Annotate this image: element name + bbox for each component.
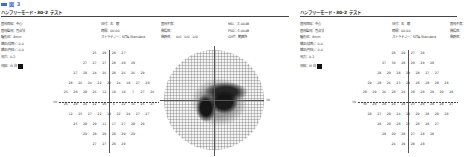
threshold-value: 26	[130, 72, 137, 75]
threshold-value: 24	[395, 113, 402, 116]
threshold-value: 27	[120, 123, 127, 126]
threshold-value: 28	[409, 143, 416, 146]
threshold-value: 25	[91, 52, 98, 55]
threshold-value: 29	[438, 91, 445, 94]
threshold-value: 28	[376, 123, 383, 126]
threshold-value: 28	[419, 91, 426, 94]
info-time: 時間：00:00	[392, 28, 436, 35]
threshold-value: 28	[419, 103, 426, 106]
threshold-value: 29	[82, 133, 89, 136]
grayscale-plot: 30	[162, 46, 266, 156]
info-pupil: 瞳孔径：4mm	[300, 34, 324, 41]
threshold-value: 24	[125, 113, 132, 116]
info-fixation-losses: 固視不良：	[450, 21, 465, 28]
threshold-value: 28	[414, 82, 421, 85]
threshold-value: 27	[91, 62, 98, 65]
threshold-value: 28	[381, 103, 388, 106]
global-indices: MD：-5.00dB PSD：5.00dB GHT：範囲外	[228, 21, 249, 41]
threshold-value: 27	[134, 113, 141, 116]
threshold-value: 28	[110, 72, 117, 75]
threshold-value: 28	[376, 72, 383, 75]
threshold-value: 12	[101, 91, 108, 94]
threshold-value: 29	[371, 91, 378, 94]
threshold-value: 29	[405, 82, 412, 85]
horizontal-axis	[160, 100, 264, 101]
threshold-value: 28	[110, 143, 117, 146]
threshold-value: 28	[429, 103, 436, 106]
threshold-value: 28	[72, 91, 79, 94]
info-false-neg: 偽陰性：	[450, 34, 465, 41]
info-fixation-monitor: 固視監視：盲点法	[1, 28, 25, 35]
threshold-grid: 30 2529282727272728282927282426282626292…	[56, 50, 156, 153]
info-fixation-target: 固視目標：中心	[1, 21, 25, 28]
threshold-value: 28	[443, 113, 450, 116]
threshold-value: 18	[110, 91, 117, 94]
threshold-value: 27	[72, 72, 79, 75]
title-rule	[1, 16, 289, 17]
threshold-value: 20	[101, 103, 108, 106]
report-panel-left: ハンフリーモード・30-2 テスト 固視目標：中心 固視監視：盲点法 瞳孔径：4…	[1, 6, 291, 157]
threshold-value: 22	[115, 113, 122, 116]
test-info-mid: 日付：右 眼 時間：00:00 ストラテジー：SITA-Standard	[101, 21, 145, 41]
threshold-value: 28	[385, 113, 392, 116]
threshold-value: 28	[82, 91, 89, 94]
info-time: 時間：00:00	[101, 28, 145, 35]
threshold-value: 28	[72, 103, 79, 106]
patient-info-left: 固視目標：中心 固視監視：盲点法 瞳孔径：4mm 矯正(球面)：0.0 矯正(円…	[300, 21, 324, 61]
threshold-value: 16	[130, 103, 137, 106]
threshold-value: 28	[395, 72, 402, 75]
threshold-value: 29	[409, 62, 416, 65]
threshold-value: 6	[110, 103, 117, 106]
threshold-value: 26	[120, 72, 127, 75]
threshold-value: 22	[120, 103, 127, 106]
stimulus-legend: 視標：III 白	[300, 63, 322, 69]
threshold-value: 27	[120, 52, 127, 55]
threshold-value: 29	[400, 143, 407, 146]
threshold-value: 28	[405, 113, 412, 116]
threshold-value: 28	[376, 82, 383, 85]
threshold-value: 26	[62, 103, 69, 106]
threshold-value: 22	[96, 113, 103, 116]
threshold-value: 27	[433, 123, 440, 126]
report-title: ハンフリーモード・30-2 テスト	[300, 9, 361, 15]
vertical-axis	[214, 46, 215, 156]
info-sphere: 矯正(球面)：0.0	[300, 41, 324, 48]
threshold-value: 26	[77, 82, 84, 85]
threshold-value: 29	[385, 123, 392, 126]
threshold-value: 12	[67, 113, 74, 116]
threshold-value: 29	[120, 143, 127, 146]
threshold-value: 26	[101, 72, 108, 75]
threshold-value: 29	[405, 72, 412, 75]
threshold-value: 25	[72, 123, 79, 126]
threshold-value: 28	[390, 91, 397, 94]
threshold-value: 29	[429, 91, 436, 94]
threshold-value: 30	[390, 62, 397, 65]
title-rule	[300, 16, 457, 17]
info-acuity: 視力：0.2	[300, 54, 324, 61]
threshold-value: 24	[400, 91, 407, 94]
info-date: 日付：右 眼	[392, 21, 436, 28]
threshold-value: 28	[67, 82, 74, 85]
threshold-value: 24	[390, 143, 397, 146]
threshold-value: 27	[91, 143, 98, 146]
threshold-value: 28	[424, 123, 431, 126]
info-date: 日付：右 眼	[101, 21, 145, 28]
threshold-value: 27	[149, 103, 156, 106]
threshold-value: 29	[130, 62, 137, 65]
threshold-value: 26	[385, 82, 392, 85]
axis-label-left: 30	[53, 100, 57, 104]
threshold-value: 29	[390, 133, 397, 136]
info-cylinder: 矯正(円柱)：0.0	[1, 47, 25, 54]
axis-label-right: 30	[266, 98, 270, 102]
report-panel-right: ハンフリーモード・30-2 テスト 固視目標：中心 固視監視：盲点法 瞳孔径：4…	[300, 6, 457, 157]
threshold-value: 27	[448, 103, 455, 106]
info-ght: GHT：範囲外	[228, 34, 249, 41]
threshold-value: 28	[429, 133, 436, 136]
threshold-value: 27	[101, 62, 108, 65]
threshold-value: 26	[381, 91, 388, 94]
threshold-value: 20	[106, 82, 113, 85]
axis-label-left: 30	[352, 100, 356, 104]
threshold-value: 28	[390, 52, 397, 55]
info-psd: PSD：5.00dB	[228, 28, 249, 35]
stimulus-square-icon	[317, 64, 322, 69]
